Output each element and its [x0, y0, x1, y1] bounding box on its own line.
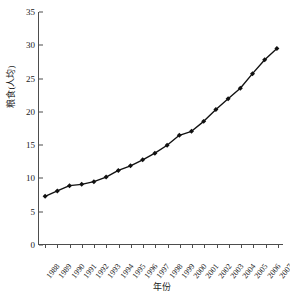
x-tick-mark	[241, 244, 242, 248]
x-tick-mark	[45, 244, 46, 248]
series-markers	[43, 46, 280, 199]
data-point	[79, 182, 84, 187]
y-tick-mark	[39, 111, 43, 112]
y-tick-label: 15	[26, 141, 35, 150]
y-tick-label: 30	[26, 41, 35, 50]
data-point	[55, 188, 60, 193]
y-tick-label: 10	[26, 174, 35, 183]
plot-area: 05101520253035 1988198919901991199219931…	[38, 12, 283, 245]
x-tick-mark	[82, 244, 83, 248]
data-point	[128, 163, 133, 168]
x-tick-mark	[155, 244, 156, 248]
y-axis-title: 粮食(人均)	[4, 51, 17, 123]
x-tick-mark	[70, 244, 71, 248]
y-tick-label: 35	[26, 8, 35, 17]
data-point	[43, 194, 48, 199]
x-tick-mark	[168, 244, 169, 248]
y-tick-label: 20	[26, 107, 35, 116]
data-point	[140, 157, 145, 162]
y-tick-mark	[39, 12, 43, 13]
x-tick-mark	[229, 244, 230, 248]
y-tick-mark	[39, 45, 43, 46]
x-tick-mark	[119, 244, 120, 248]
y-tick-mark	[39, 78, 43, 79]
x-tick-mark	[143, 244, 144, 248]
y-tick-mark	[39, 178, 43, 179]
y-tick-mark	[39, 145, 43, 146]
x-tick-mark	[94, 244, 95, 248]
data-point	[91, 179, 96, 184]
y-tick-label: 25	[26, 74, 35, 83]
y-tick-mark	[39, 245, 43, 246]
y-tick-label: 0	[31, 241, 36, 250]
x-tick-mark	[204, 244, 205, 248]
x-tick-mark	[278, 244, 279, 248]
x-tick-mark	[266, 244, 267, 248]
line-chart: 粮食(人均) 05101520253035 198819891990199119…	[0, 0, 290, 293]
x-tick-mark	[180, 244, 181, 248]
x-tick-mark	[57, 244, 58, 248]
x-tick-mark	[217, 244, 218, 248]
x-tick-mark	[253, 244, 254, 248]
x-tick-mark	[192, 244, 193, 248]
series-line-grain-per-capita	[39, 12, 283, 244]
x-tick-mark	[106, 244, 107, 248]
y-tick-label: 5	[31, 207, 36, 216]
data-point	[67, 183, 72, 188]
data-point	[116, 168, 121, 173]
y-tick-mark	[39, 211, 43, 212]
x-axis-title: 年份	[39, 280, 284, 293]
x-tick-mark	[131, 244, 132, 248]
series-polyline	[45, 48, 277, 196]
data-point	[104, 175, 109, 180]
